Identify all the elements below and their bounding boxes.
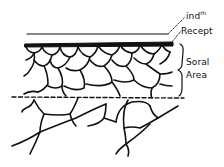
soral-boundary-dashed [12,97,184,98]
receptacle-label: Recept [181,27,213,36]
soral-label-line1: Soral [186,58,209,67]
cell-network [24,44,172,98]
soral-label-line2: Area [186,71,207,80]
soral-brace [178,44,183,96]
indusium-sup: m [200,9,206,16]
indusium-text: ind [186,11,200,21]
receptacle-leader [172,31,181,42]
lower-cell-network [12,98,178,156]
indusium-label: indm [186,10,206,21]
